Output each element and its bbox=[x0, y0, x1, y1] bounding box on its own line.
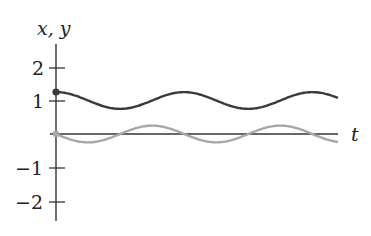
tick-label-2: 2 bbox=[32, 57, 44, 79]
y-initial-point bbox=[53, 131, 59, 137]
t-axis-label: t bbox=[351, 123, 359, 145]
x-initial-point bbox=[52, 88, 59, 95]
x-curve bbox=[56, 92, 338, 109]
tick-label-1: 1 bbox=[32, 90, 44, 112]
chart: x, y t 2 1 −1 −2 bbox=[0, 0, 371, 236]
tick-label-minus-1: −1 bbox=[15, 157, 43, 179]
y-axis-label: x, y bbox=[37, 17, 71, 39]
tick-label-minus-2: −2 bbox=[15, 191, 43, 213]
